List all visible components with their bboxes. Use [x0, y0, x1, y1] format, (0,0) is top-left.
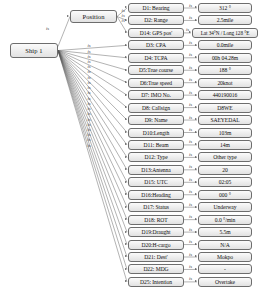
node-value-d3[interactable]: 0.0mile: [198, 40, 252, 50]
edge-arrowhead: [125, 231, 127, 233]
node-value-d18[interactable]: 0.0 °/min: [198, 215, 252, 225]
node-attribute-d5[interactable]: D5:True course: [128, 65, 184, 75]
node-value-d21[interactable]: Mokpo: [198, 252, 252, 262]
edge-arrowhead: [125, 31, 127, 33]
node-value-d6[interactable]: 20knot: [198, 78, 252, 88]
edge-arrowhead: [195, 243, 197, 245]
edge-label-is: is: [189, 202, 192, 207]
edge-arrowhead: [125, 156, 127, 158]
edge-arrowhead: [125, 56, 127, 58]
edge-arrowhead: [125, 6, 127, 8]
node-value-d15[interactable]: 02:05: [198, 177, 252, 187]
node-attribute-d10[interactable]: D10:Length: [128, 128, 184, 138]
node-attribute-d14[interactable]: D14: GPS pos': [128, 28, 184, 38]
edge-arrowhead: [125, 69, 127, 71]
node-attribute-d12[interactable]: D12: Type: [128, 152, 184, 162]
edge-label-is: is: [189, 189, 192, 194]
edge-arrowhead: [195, 118, 197, 120]
edge-arrowhead: [125, 81, 127, 83]
node-value-d2[interactable]: 2.5mile: [198, 15, 252, 25]
node-value-d22[interactable]: -: [198, 264, 252, 274]
node-value-d13[interactable]: 20: [198, 165, 252, 175]
edge-label-is: is: [189, 15, 192, 20]
edge-arrowhead: [125, 268, 127, 270]
edge-arrowhead: [67, 15, 69, 17]
edge-arrowhead: [195, 168, 197, 170]
edge-arrowhead: [125, 181, 127, 183]
node-value-d12[interactable]: Other type: [198, 152, 252, 162]
edge-arrowhead: [195, 231, 197, 233]
node-attribute-d22[interactable]: D22: MDG: [128, 264, 184, 274]
edge-arrowhead: [195, 255, 197, 257]
edge-arrowhead: [125, 19, 127, 21]
edge-arrowhead: [195, 268, 197, 270]
edge-arrowhead: [195, 181, 197, 183]
node-value-d19[interactable]: 5.5m: [198, 227, 252, 237]
node-value-d25[interactable]: Overtake: [198, 277, 252, 287]
edge-label-is: is: [189, 152, 192, 157]
node-value-d11[interactable]: 14m: [198, 140, 252, 150]
node-attribute-d19[interactable]: D19:Draught: [128, 227, 184, 237]
node-group-position[interactable]: Position: [70, 10, 117, 23]
node-attribute-d16[interactable]: D16:Heading: [128, 190, 184, 200]
node-attribute-d20[interactable]: D20:H-cargo: [128, 240, 184, 250]
node-attribute-d11[interactable]: D11: Beam: [128, 140, 184, 150]
node-value-d10[interactable]: 103m: [198, 128, 252, 138]
edge-arrowhead: [195, 193, 197, 195]
node-attribute-d6[interactable]: D6:True speed: [128, 78, 184, 88]
node-value-d5[interactable]: 188 °: [198, 65, 252, 75]
node-attribute-d17[interactable]: D17: Status: [128, 202, 184, 212]
node-value-d8[interactable]: D8WE: [198, 103, 252, 113]
edge-arrowhead: [125, 94, 127, 96]
node-attribute-d2[interactable]: D2: Range: [128, 15, 184, 25]
edge-label-is: is: [46, 26, 49, 31]
edge-arrowhead: [125, 206, 127, 208]
edge-arrowhead: [125, 255, 127, 257]
edge-label-is: is: [189, 264, 192, 269]
node-value-d16[interactable]: 000 °: [198, 190, 252, 200]
edge-arrowhead: [195, 143, 197, 145]
node-value-d7[interactable]: 440190016: [198, 90, 252, 100]
node-value-d1[interactable]: 312 °: [198, 3, 252, 13]
node-value-d4[interactable]: 00h 04.28m: [198, 53, 252, 63]
edge-arrowhead: [125, 243, 127, 245]
edge-arrowhead: [125, 118, 127, 120]
edge-label-is: is: [189, 227, 192, 232]
node-attribute-d25[interactable]: D25: Intention: [128, 277, 184, 287]
node-attribute-d1[interactable]: D1: Bearing: [128, 3, 184, 13]
edge-label-is: is: [189, 139, 192, 144]
node-attribute-d15[interactable]: D15: UTC: [128, 177, 184, 187]
edge-arrowhead: [195, 106, 197, 108]
node-value-d20[interactable]: N/A: [198, 240, 252, 250]
edge-arrowhead: [195, 19, 197, 21]
node-value-d14[interactable]: Lat 34°N / Long 128 °E: [192, 28, 258, 38]
node-attribute-d4[interactable]: D4: TCPA: [128, 53, 184, 63]
edge-arrowhead: [189, 31, 191, 33]
edge-label-is: is: [189, 77, 192, 82]
node-attribute-d8[interactable]: D8: Callsign: [128, 103, 184, 113]
node-value-d17[interactable]: Underway: [198, 202, 252, 212]
edge-label-is: is: [189, 115, 192, 120]
edge-label-is: is: [189, 214, 192, 219]
edge-label-is: is: [189, 90, 192, 95]
node-attribute-d21[interactable]: D21: Dest': [128, 252, 184, 262]
edge-label-is: is: [189, 127, 192, 132]
edge-arrowhead: [195, 280, 197, 282]
node-ship-1[interactable]: Ship 1: [10, 43, 58, 58]
node-attribute-d9[interactable]: D9: Name: [128, 115, 184, 125]
node-value-d9[interactable]: SAEYEDAL: [198, 115, 252, 125]
node-attribute-d13[interactable]: D13:Antenna: [128, 165, 184, 175]
edge-label-is: is: [87, 143, 90, 148]
edge-arrowhead: [125, 218, 127, 220]
edge-arrowhead: [125, 44, 127, 46]
edge-label-is: is: [189, 239, 192, 244]
edge-arrowhead: [125, 193, 127, 195]
edge-label-is: is: [186, 27, 189, 32]
node-attribute-d3[interactable]: D3: CPA: [128, 40, 184, 50]
edge-label-is: is: [189, 40, 192, 45]
edge-arrowhead: [125, 106, 127, 108]
edge-arrowhead: [195, 156, 197, 158]
edge-arrowhead: [195, 56, 197, 58]
node-attribute-d18[interactable]: D18: ROT: [128, 215, 184, 225]
node-attribute-d7[interactable]: D7: IMO No.: [128, 90, 184, 100]
